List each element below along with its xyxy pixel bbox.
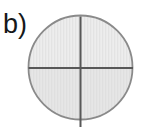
- figure-panel: b): [0, 0, 147, 128]
- panel-label: b): [3, 9, 27, 39]
